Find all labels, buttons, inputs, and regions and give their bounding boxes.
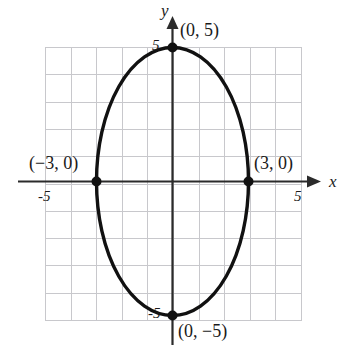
point-bottom (168, 311, 178, 321)
point-label-bottom: (0, −5) (178, 322, 227, 340)
ellipse-graph-figure: y x 5 -5 -5 5 (0, 5) (3, 0) (0, −5) (−3,… (0, 0, 348, 353)
x-axis-label: x (329, 173, 337, 190)
point-label-right: (3, 0) (254, 154, 293, 172)
point-label-left: (−3, 0) (29, 154, 78, 172)
coordinate-plane-svg (0, 0, 348, 353)
x-tick-label-neg5: -5 (38, 189, 51, 204)
point-label-top: (0, 5) (180, 21, 219, 39)
y-tick-label-neg5: -5 (148, 306, 161, 321)
y-axis-label: y (161, 2, 169, 19)
point-left (92, 177, 102, 187)
point-right (244, 177, 254, 187)
x-tick-label-5: 5 (294, 189, 302, 204)
y-tick-label-5: 5 (152, 38, 160, 53)
point-top (168, 43, 178, 53)
